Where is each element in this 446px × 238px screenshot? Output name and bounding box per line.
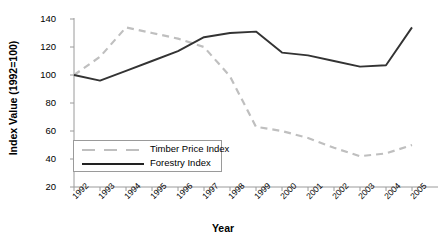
y-tick-label: 60: [22, 125, 56, 136]
chart-legend: Timber Price Index Forestry Index: [73, 140, 222, 172]
legend-label-timber: Timber Price Index: [150, 143, 229, 154]
legend-swatch-solid-icon: [82, 163, 144, 165]
plot-area: [0, 0, 446, 238]
chart-figure: Index Value (1992=100) 20406080100120140…: [0, 0, 446, 238]
legend-item-timber: Timber Price Index: [74, 143, 223, 157]
y-tick-label: 120: [22, 41, 56, 52]
x-axis-title: Year: [0, 222, 446, 234]
legend-label-forestry: Forestry Index: [150, 157, 211, 168]
y-tick-label: 80: [22, 97, 56, 108]
y-tick-label: 20: [22, 181, 56, 192]
series-line-forestry-index: [74, 27, 412, 80]
y-tick-label: 140: [22, 13, 56, 24]
y-tick-label: 100: [22, 69, 56, 80]
y-tick-label: 40: [22, 153, 56, 164]
legend-item-forestry: Forestry Index: [74, 157, 223, 171]
legend-swatch-dashed-icon: [82, 149, 144, 151]
series-line-timber-price-index: [74, 27, 412, 156]
